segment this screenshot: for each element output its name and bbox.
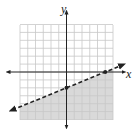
x-axis-label: x (125, 67, 132, 81)
y-axis-label: y (60, 2, 67, 16)
coordinate-plane: y x (0, 0, 133, 129)
